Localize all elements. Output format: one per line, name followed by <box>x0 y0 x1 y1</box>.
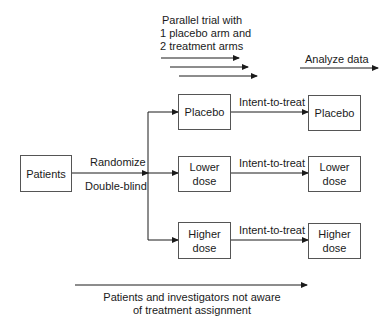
higher-dose-assigned-label-2: dose <box>193 241 217 255</box>
placebo-analyzed-box: Placebo <box>308 95 361 131</box>
patients-label: Patients <box>26 167 66 181</box>
randomize-label: Randomize <box>90 156 146 169</box>
analyze-data-label: Analyze data <box>305 53 369 66</box>
lower-dose-assigned-label-2: dose <box>193 174 217 188</box>
design-title: Parallel trial with 1 placebo arm and 2 … <box>160 14 251 53</box>
design-title-line: 2 treatment arms <box>160 40 251 53</box>
higher-dose-analyzed-label-1: Higher <box>318 227 350 241</box>
higher-dose-analyzed-box: Higher dose <box>308 223 361 259</box>
lower-dose-assigned-box: Lower dose <box>178 156 231 192</box>
placebo-assigned-box: Placebo <box>178 94 231 130</box>
blinding-note-line: Patients and investigators not aware <box>103 291 280 304</box>
patients-box: Patients <box>20 155 72 192</box>
placebo-assigned-label: Placebo <box>185 105 225 119</box>
itt-label-lower: Intent-to-treat <box>239 157 305 170</box>
higher-dose-analyzed-label-2: dose <box>323 241 347 255</box>
placebo-analyzed-label: Placebo <box>315 106 355 120</box>
blinding-note: Patients and investigators not aware of … <box>103 291 280 317</box>
itt-label-placebo: Intent-to-treat <box>239 96 305 109</box>
design-title-line: 1 placebo arm and <box>160 27 251 40</box>
lower-dose-analyzed-label-1: Lower <box>320 160 350 174</box>
itt-label-higher: Intent-to-treat <box>239 224 305 237</box>
blinding-note-line: of treatment assignment <box>103 304 280 317</box>
lower-dose-analyzed-label-2: dose <box>323 174 347 188</box>
design-title-line: Parallel trial with <box>160 14 251 27</box>
higher-dose-assigned-label-1: Higher <box>188 227 220 241</box>
double-blind-label: Double-blind <box>85 180 147 193</box>
lower-dose-assigned-label-1: Lower <box>190 160 220 174</box>
higher-dose-assigned-box: Higher dose <box>178 222 231 259</box>
lower-dose-analyzed-box: Lower dose <box>308 156 361 192</box>
